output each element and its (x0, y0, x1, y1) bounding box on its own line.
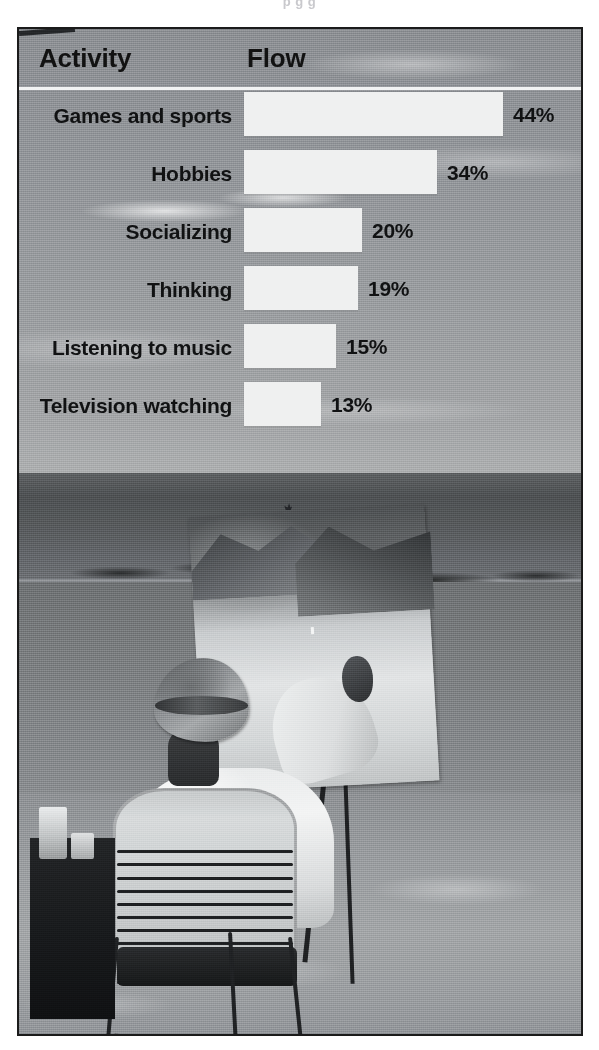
bar-value: 13% (331, 393, 372, 417)
bar-label: Thinking (17, 278, 232, 302)
bar (244, 92, 503, 136)
column-header-activity: Activity (39, 43, 131, 74)
paint-jar-large (39, 807, 67, 859)
bar-value: 34% (447, 161, 488, 185)
bar (244, 324, 336, 368)
bar-value: 44% (513, 103, 554, 127)
bar-label: Television watching (17, 394, 232, 418)
bar-label: Listening to music (17, 336, 232, 360)
bar (244, 208, 362, 252)
column-header-flow: Flow (247, 43, 305, 74)
folding-chair (109, 788, 323, 1029)
chair-slat (117, 903, 292, 906)
bar-value: 20% (372, 219, 413, 243)
chart-row: Listening to music 15% (19, 324, 581, 382)
chart-row: Hobbies 34% (19, 150, 581, 208)
bar-label: Socializing (17, 220, 232, 244)
cropped-caption-remnant: p g g (0, 0, 599, 12)
bar-value: 15% (346, 335, 387, 359)
chart-row: Television watching 13% (19, 382, 581, 440)
bar (244, 150, 437, 194)
chart-header: Activity Flow (19, 41, 581, 79)
chair-slat (117, 929, 292, 932)
chair-slat (117, 863, 292, 866)
chair-slat (117, 850, 292, 853)
chart-row: Games and sports 44% (19, 92, 581, 150)
chart-rows: Games and sports 44% Hobbies 34% Sociali… (19, 92, 581, 440)
painter-hand (342, 656, 373, 702)
supply-table (30, 838, 114, 1019)
bar (244, 266, 358, 310)
bar-value: 19% (368, 277, 409, 301)
bar (244, 382, 321, 426)
paint-jar-small (71, 833, 95, 859)
chair-slat (117, 916, 292, 919)
bar-label: Hobbies (17, 162, 232, 186)
painting-figure-3 (310, 627, 313, 634)
painting-ridge-right (293, 521, 435, 617)
header-divider (19, 87, 581, 90)
chair-slat (117, 942, 292, 945)
chair-foot-rail (113, 1034, 241, 1036)
chair-slat (117, 877, 292, 880)
flow-bar-chart: Activity Flow Games and sports 44% Hobbi… (19, 29, 581, 440)
bar-label: Games and sports (17, 104, 232, 128)
figure-panel: Activity Flow Games and sports 44% Hobbi… (17, 27, 583, 1036)
chart-row: Socializing 20% (19, 208, 581, 266)
chair-slat (117, 890, 292, 893)
chair-seat (117, 947, 296, 986)
chart-row: Thinking 19% (19, 266, 581, 324)
painter-hat-band (155, 696, 249, 714)
